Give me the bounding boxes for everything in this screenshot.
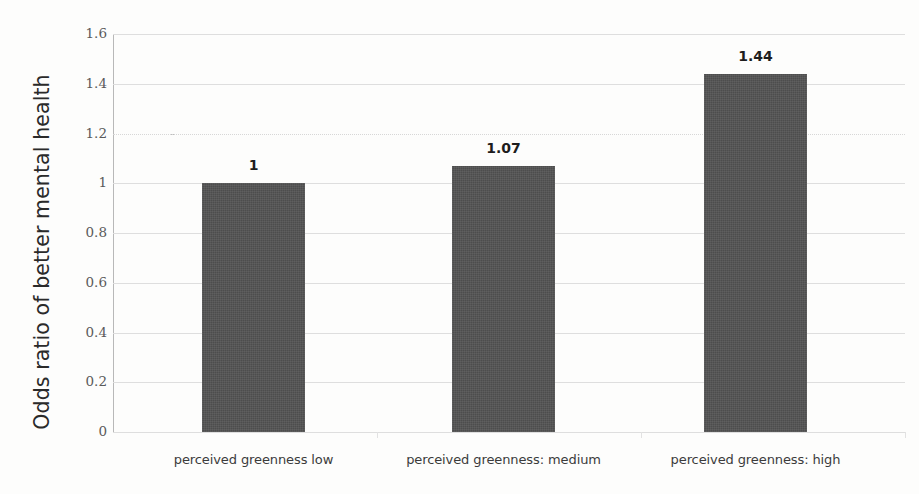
y-tick-label: 1.4 xyxy=(61,77,107,91)
y-tick-label: 1.2 xyxy=(61,127,107,141)
bar-value-label: 1 xyxy=(194,157,314,173)
x-tick-mark xyxy=(905,432,906,438)
y-tick-label: 1 xyxy=(61,176,107,190)
plot-area xyxy=(113,34,905,432)
y-axis-tick-labels: 00.20.40.60.811.21.41.6 xyxy=(60,0,107,494)
bar xyxy=(202,183,305,432)
y-tick-label: 0 xyxy=(61,425,107,439)
gridline xyxy=(113,432,905,433)
gridline xyxy=(113,34,905,35)
x-tick-mark xyxy=(641,432,642,438)
y-tick-label: 0.6 xyxy=(61,276,107,290)
bar-chart-figure: Odds ratio of better mental health 00.20… xyxy=(0,0,919,494)
x-tick-mark xyxy=(377,432,378,438)
y-tick-label: 0.2 xyxy=(61,375,107,389)
y-tick-label: 1.6 xyxy=(61,27,107,41)
y-tick-label: 0.4 xyxy=(61,326,107,340)
bar xyxy=(452,166,555,432)
bar-value-label: 1.07 xyxy=(444,140,564,156)
y-axis-title: Odds ratio of better mental health xyxy=(30,42,54,462)
y-tick-label: 0.8 xyxy=(61,226,107,240)
bar xyxy=(704,74,807,432)
bar-value-label: 1.44 xyxy=(696,48,816,64)
category-label: perceived greenness: high xyxy=(606,452,906,467)
